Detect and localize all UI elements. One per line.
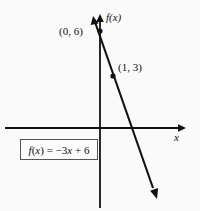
line-arrowhead-bottom-icon (150, 188, 158, 199)
graph-figure: f(x) x (0, 6) (1, 3) f(x) = −3x + 6 (0, 0, 200, 211)
point-label-second-point: (1, 3) (118, 62, 142, 73)
equation-text: f(x) = −3x + 6 (29, 144, 90, 156)
point-marker-second (110, 73, 115, 78)
equation-plus: + (72, 144, 84, 156)
function-line (95, 22, 153, 188)
x-axis-arrowhead-icon (178, 124, 186, 132)
equation-equals: = (44, 144, 56, 156)
y-axis-arrowhead-icon (96, 14, 104, 22)
x-axis-label: x (174, 132, 179, 143)
point-marker-y-intercept (97, 28, 102, 33)
equation-intercept-value: 6 (84, 144, 90, 156)
y-axis-label: f(x) (106, 12, 121, 23)
equation-box: f(x) = −3x + 6 (20, 139, 98, 160)
coordinate-plane (0, 0, 200, 211)
point-label-y-intercept: (0, 6) (59, 26, 83, 37)
